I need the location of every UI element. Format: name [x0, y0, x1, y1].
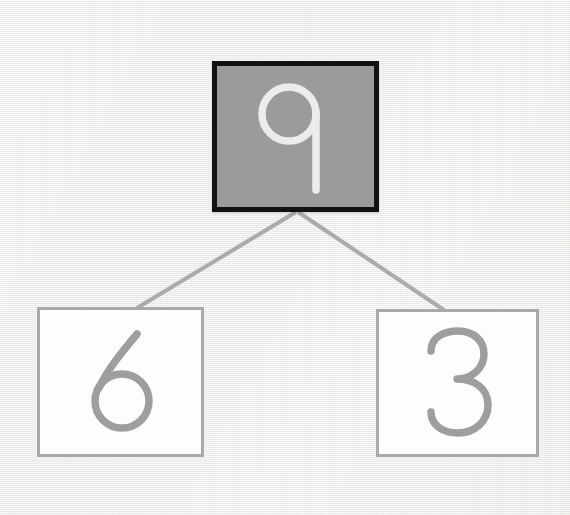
- whole-box[interactable]: [212, 61, 379, 212]
- part-left-value: [81, 326, 161, 438]
- digit-6-glyph: [81, 326, 161, 438]
- digit-9-glyph: [255, 78, 337, 196]
- connector-whole-to-right-part: [298, 212, 444, 310]
- number-bond-diagram: [0, 0, 570, 515]
- connector-whole-to-left-part: [137, 212, 296, 308]
- part-box-right[interactable]: [376, 309, 539, 457]
- digit-3-glyph: [420, 327, 496, 439]
- whole-value: [255, 78, 337, 196]
- part-box-left[interactable]: [37, 307, 204, 457]
- part-right-value: [420, 327, 496, 439]
